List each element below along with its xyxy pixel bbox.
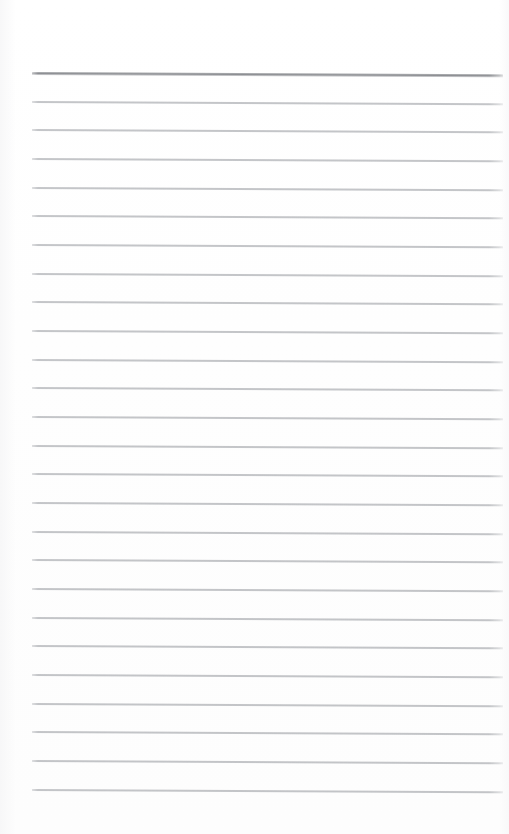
ruled-line: [32, 387, 503, 391]
ruled-line: [32, 559, 503, 563]
ruled-line: [32, 731, 503, 735]
lined-paper-page: [0, 0, 509, 834]
ruled-line: [32, 273, 503, 277]
ruled-line: [32, 760, 503, 764]
ruled-line: [32, 330, 503, 334]
ruled-line: [32, 244, 503, 248]
ruled-line: [32, 674, 503, 678]
ruled-line: [32, 703, 503, 707]
ruled-line: [32, 101, 503, 105]
ruled-line: [32, 158, 503, 162]
ruled-line: [32, 301, 503, 305]
ruled-line: [32, 789, 503, 793]
ruled-line: [32, 502, 503, 506]
ruled-line: [32, 187, 503, 191]
ruled-line: [32, 215, 503, 219]
ruled-line: [32, 645, 503, 649]
ruled-line: [32, 531, 503, 535]
header-rule-line: [32, 72, 503, 77]
ruled-line: [32, 473, 503, 477]
ruled-line: [32, 129, 503, 133]
ruled-line: [32, 416, 503, 420]
ruled-line-layer: [0, 0, 509, 834]
ruled-line: [32, 359, 503, 363]
ruled-line: [32, 617, 503, 621]
ruled-line: [32, 445, 503, 449]
ruled-line: [32, 588, 503, 592]
